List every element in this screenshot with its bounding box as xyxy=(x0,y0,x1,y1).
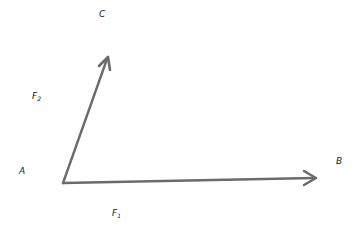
vector-f1-label: F1 xyxy=(112,209,121,219)
vector-f2-label-sub: 2 xyxy=(37,95,41,102)
vector-f2-arrow xyxy=(63,57,110,183)
point-a-label: A xyxy=(19,167,25,176)
vector-diagram: C F2 A B F1 xyxy=(0,0,356,226)
point-b-label: B xyxy=(336,157,342,166)
vector-arrows xyxy=(0,0,356,226)
vector-f2-label: F2 xyxy=(32,92,41,102)
vector-f1-label-sub: 1 xyxy=(117,212,121,219)
point-c-label: C xyxy=(99,10,105,19)
vector-f1-arrow xyxy=(63,171,316,185)
